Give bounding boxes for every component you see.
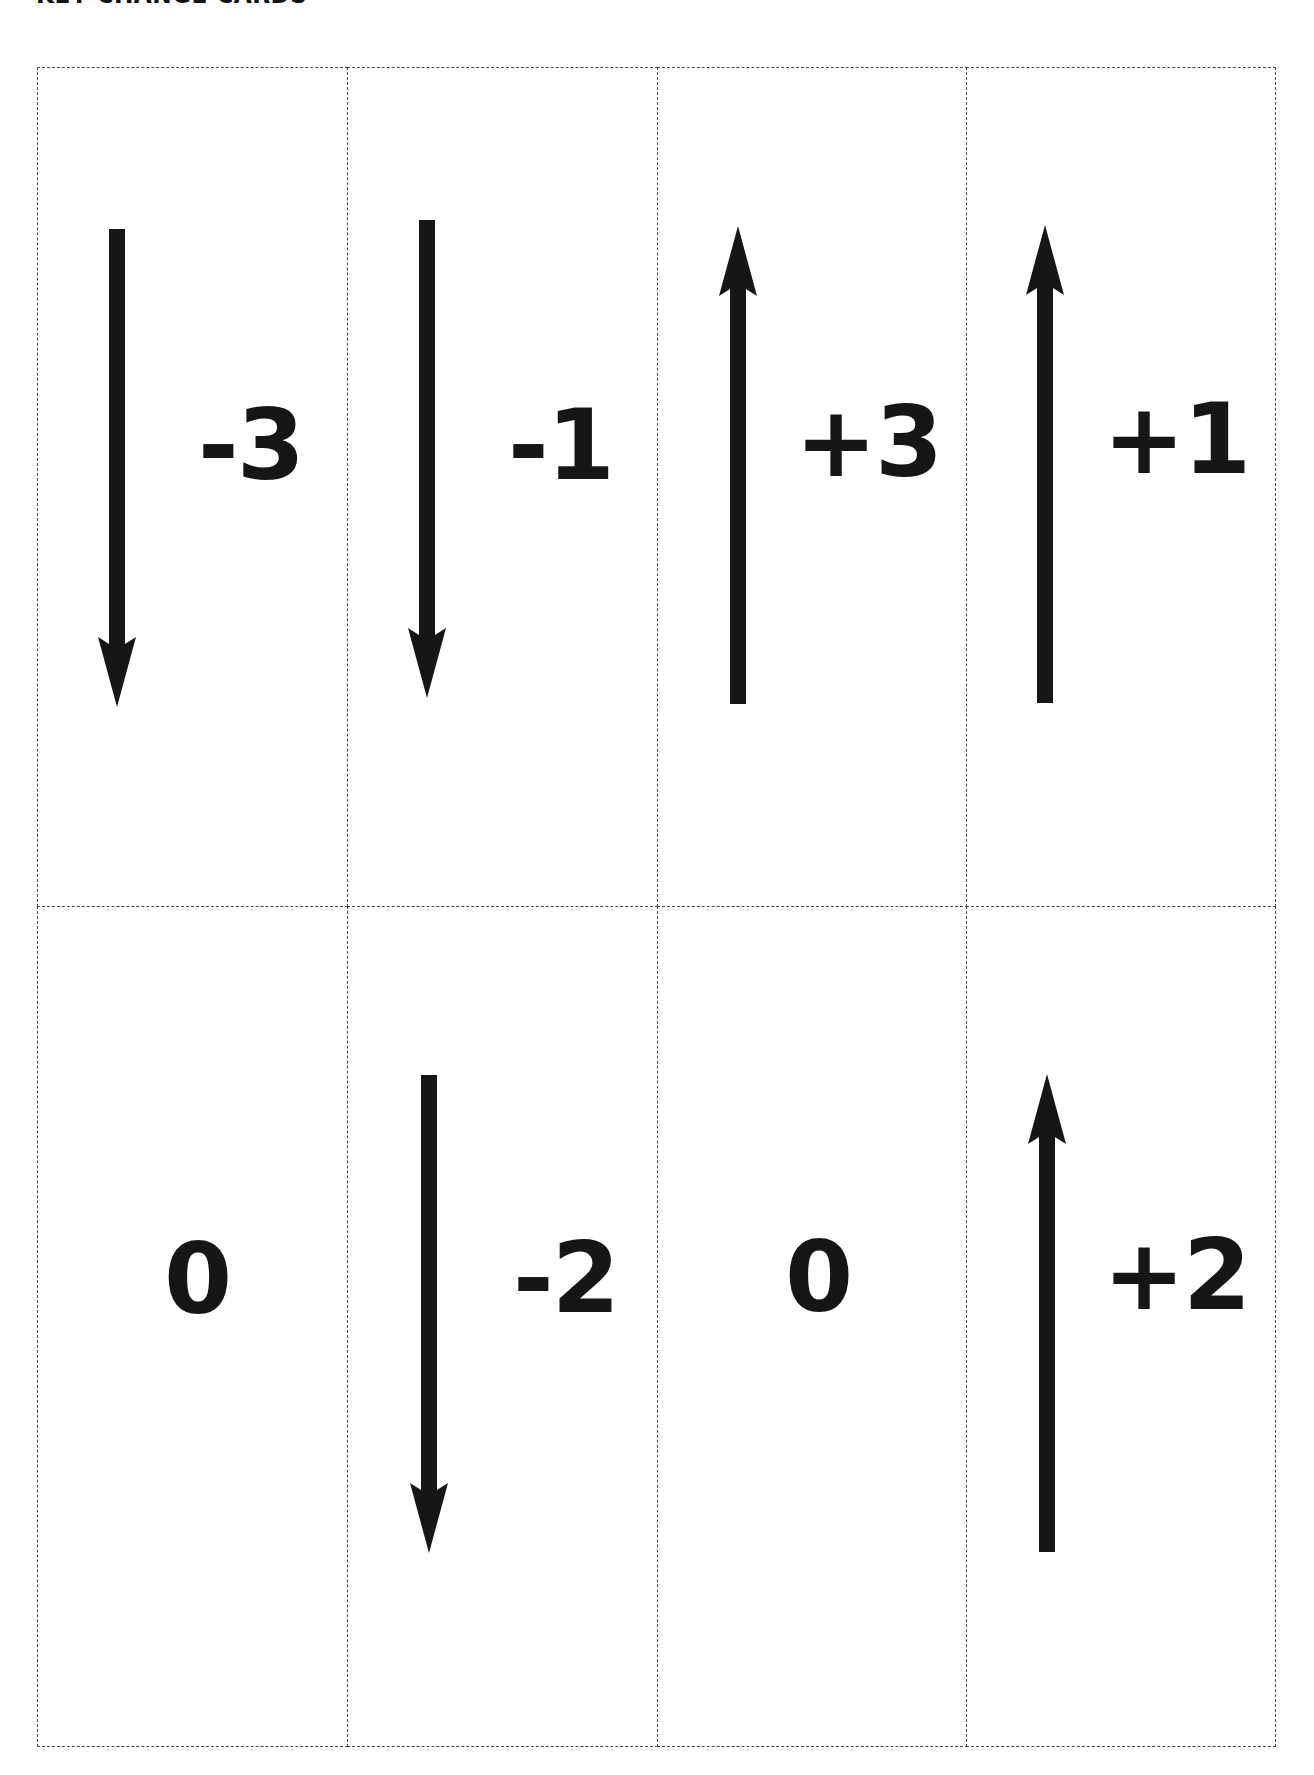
card-sheet: -3 -1 +3 +1 0	[37, 67, 1276, 1747]
arrow-up-icon	[1027, 1074, 1067, 1552]
key-change-card: -3	[37, 67, 348, 907]
key-change-card: 0	[37, 906, 348, 1747]
card-value: +1	[1103, 390, 1249, 488]
arrow-down-icon	[97, 229, 137, 707]
card-value: +2	[1103, 1226, 1249, 1324]
card-value: 0	[785, 1228, 851, 1326]
card-value: +3	[795, 393, 941, 491]
key-change-card: -1	[347, 67, 658, 907]
key-change-card: -2	[347, 906, 658, 1747]
arrow-down-icon	[407, 220, 447, 698]
card-value: -3	[198, 396, 303, 494]
key-change-card: +2	[966, 906, 1276, 1747]
card-value: -2	[513, 1229, 618, 1327]
card-value: -1	[508, 396, 613, 494]
arrow-up-icon	[718, 226, 758, 704]
arrow-up-icon	[1025, 225, 1065, 703]
card-value: 0	[164, 1230, 230, 1328]
key-change-card: 0	[657, 906, 968, 1747]
key-change-card: +1	[966, 67, 1276, 907]
page-title: KEY CHANGE CARDS	[36, 0, 307, 7]
arrow-down-icon	[409, 1075, 449, 1553]
key-change-card: +3	[657, 67, 968, 907]
